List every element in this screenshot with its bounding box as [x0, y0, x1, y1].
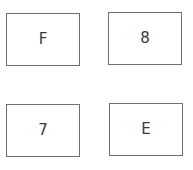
card-label: F — [39, 32, 48, 47]
card-label: E — [141, 122, 150, 137]
card-e[interactable]: E — [109, 103, 183, 156]
card-label: 8 — [140, 31, 150, 46]
card-label: 7 — [38, 123, 48, 138]
card-f[interactable]: F — [6, 13, 80, 66]
card-8[interactable]: 8 — [108, 12, 182, 65]
card-7[interactable]: 7 — [6, 104, 80, 157]
